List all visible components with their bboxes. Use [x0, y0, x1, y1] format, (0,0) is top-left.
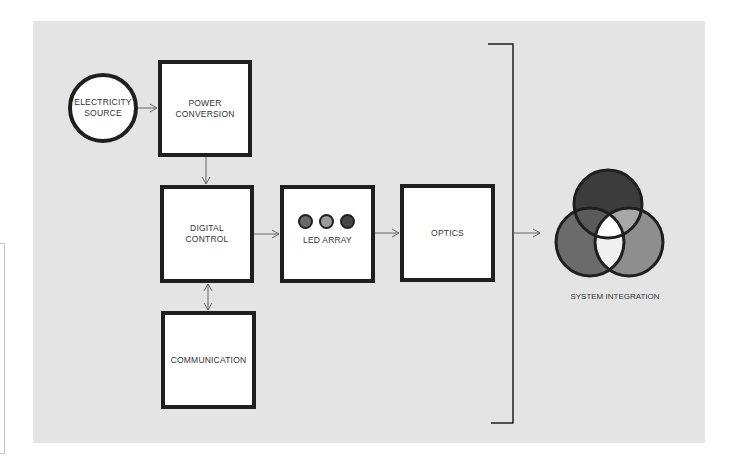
- node-label: LED ARRAY: [284, 235, 371, 246]
- led-row: [298, 214, 355, 229]
- venn-diagram-icon: [556, 170, 663, 276]
- led-icon: [319, 214, 334, 229]
- led-icon: [298, 214, 313, 229]
- node-label: DIGITAL CONTROL: [186, 223, 229, 245]
- node-label: POWER CONVERSION: [175, 98, 234, 120]
- node-power-conversion: POWER CONVERSION: [158, 60, 252, 157]
- node-label: COMMUNICATION: [171, 355, 247, 366]
- node-communication: COMMUNICATION: [161, 311, 256, 409]
- node-digital-control: DIGITAL CONTROL: [160, 185, 254, 283]
- node-label: ELECTRICITY SOURCE: [74, 97, 131, 119]
- node-led-array: LED ARRAY: [280, 185, 375, 283]
- system-integration-label: SYSTEM INTEGRATION: [560, 292, 670, 301]
- node-optics: OPTICS: [400, 184, 495, 282]
- node-electricity-source: ELECTRICITY SOURCE: [68, 73, 138, 143]
- node-label: OPTICS: [431, 228, 464, 239]
- led-icon: [340, 214, 355, 229]
